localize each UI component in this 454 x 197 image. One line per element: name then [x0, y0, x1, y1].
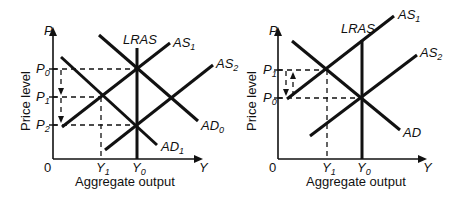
left-origin: 0 — [44, 160, 51, 175]
right-label-p1: P1 — [263, 62, 277, 79]
left-label-p2: P2 — [36, 117, 50, 134]
left-down-arrow-icon — [58, 88, 64, 95]
left-label-p0: P0 — [36, 61, 50, 78]
left-label-ad1: AD1 — [160, 139, 184, 156]
right-label-lras: LRAS — [341, 21, 375, 36]
left-diagram: P Price level P0 P1 P2 0 Y1 Y0 Y Aggrega… — [18, 23, 238, 189]
left-x-symbol: Y — [199, 160, 209, 175]
left-label-lras: LRAS — [123, 32, 157, 47]
left-label-as2: AS2 — [215, 56, 238, 73]
right-up-arrow-icon — [290, 72, 296, 79]
left-label-ad0: AD0 — [200, 118, 224, 135]
left-label-p1: P1 — [36, 89, 50, 106]
left-y-axis-label: Price level — [18, 71, 33, 131]
left-as1-curve — [62, 43, 170, 127]
left-x-axis-label: Aggregate output — [75, 174, 175, 189]
right-y-axis-label: Price level — [244, 71, 259, 131]
right-origin: 0 — [269, 160, 276, 175]
right-label-as2: AS2 — [419, 45, 442, 62]
left-as2-curve — [105, 65, 213, 150]
right-label-ad: AD — [402, 125, 421, 140]
right-down-arrow-icon — [283, 89, 289, 96]
left-down-arrow-icon — [58, 116, 64, 123]
right-label-p0: P0 — [263, 90, 277, 107]
right-x-symbol: Y — [423, 160, 433, 175]
right-y-symbol: P — [269, 23, 278, 38]
left-y-symbol: P — [44, 23, 53, 38]
right-label-as1: AS1 — [397, 7, 420, 24]
ad-as-diagrams: P Price level P0 P1 P2 0 Y1 Y0 Y Aggrega… — [0, 0, 454, 197]
right-x-axis-label: Aggregate output — [306, 174, 406, 189]
right-diagram: P Price level P1 P0 0 Y1 Y0 Y Aggregate … — [244, 7, 442, 189]
left-label-as1: AS1 — [172, 35, 195, 52]
left-ad1-curve — [61, 57, 157, 145]
